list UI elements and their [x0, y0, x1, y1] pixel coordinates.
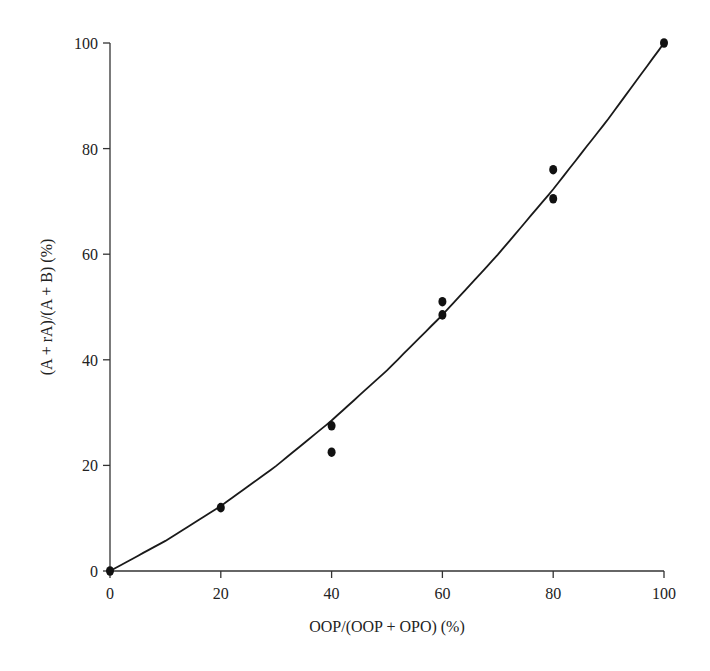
data-point: [438, 310, 446, 320]
fitted-curve: [110, 43, 664, 571]
y-ticks: 020406080100: [74, 35, 110, 580]
data-points: [106, 38, 668, 576]
y-tick-label: 80: [82, 141, 98, 158]
x-tick-label: 60: [434, 585, 450, 602]
x-tick-label: 100: [652, 585, 676, 602]
axes: [110, 43, 664, 571]
y-tick-label: 60: [82, 246, 98, 263]
data-point: [217, 503, 225, 513]
y-tick-label: 100: [74, 35, 98, 52]
y-tick-label: 40: [82, 352, 98, 369]
data-point: [549, 194, 557, 204]
x-tick-label: 0: [106, 585, 114, 602]
data-point: [328, 421, 336, 431]
x-tick-label: 40: [324, 585, 340, 602]
y-tick-label: 20: [82, 457, 98, 474]
chart: 020406080100 020406080100 OOP/(OOP + OPO…: [0, 0, 710, 671]
data-point: [438, 297, 446, 307]
x-axis-label: OOP/(OOP + OPO) (%): [309, 618, 465, 636]
y-axis-label: (A + rA)/(A + B) (%): [38, 239, 56, 376]
data-point: [328, 447, 336, 457]
y-tick-label: 0: [90, 563, 98, 580]
x-ticks: 020406080100: [106, 571, 676, 602]
data-point: [660, 38, 668, 48]
x-tick-label: 80: [545, 585, 561, 602]
x-tick-label: 20: [213, 585, 229, 602]
data-point: [549, 165, 557, 175]
data-point: [106, 566, 114, 576]
scatter-plot: 020406080100 020406080100 OOP/(OOP + OPO…: [0, 0, 710, 671]
